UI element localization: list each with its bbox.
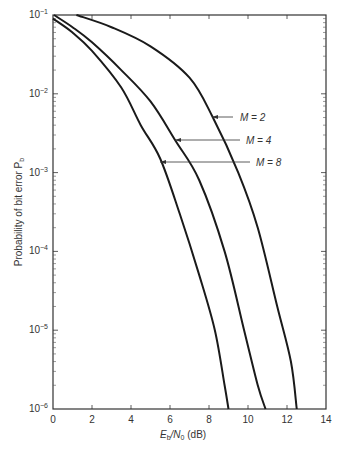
curve-m2 (76, 15, 296, 409)
x-tick-label: 0 (50, 414, 56, 425)
x-tick-label: 4 (128, 414, 134, 425)
x-tick-label: 14 (320, 414, 332, 425)
x-tick-label: 6 (167, 414, 173, 425)
y-tick-label: 10−2 (29, 87, 48, 99)
x-tick-label: 8 (206, 414, 212, 425)
plot-frame (53, 15, 326, 409)
y-tick-label: 10−3 (29, 166, 48, 178)
y-ticks: 10−110−210−310−410−510−6 (29, 8, 326, 414)
y-tick-label: 10−4 (29, 244, 48, 256)
curve-m8 (53, 19, 229, 409)
x-axis-label: Eb/N0 (dB) (160, 429, 206, 441)
y-axis-label: Probability of bit error Pb (13, 158, 25, 267)
curves (53, 15, 297, 409)
x-tick-label: 12 (281, 414, 293, 425)
y-tick-label: 10−1 (29, 8, 48, 20)
annotation-m8: M = 8 (160, 157, 282, 168)
y-tick-label: 10−6 (29, 402, 48, 414)
label-m2: M = 2 (240, 112, 266, 123)
x-ticks: 02468101214 (50, 15, 332, 425)
ber-chart: 02468101214 10−110−210−310−410−510−6 M =… (0, 0, 343, 453)
x-tick-label: 10 (242, 414, 254, 425)
label-m4: M = 4 (246, 135, 272, 146)
y-tick-label: 10−5 (29, 323, 48, 335)
x-tick-label: 2 (89, 414, 95, 425)
label-m8: M = 8 (256, 157, 282, 168)
annotation-m2: M = 2 (212, 112, 266, 123)
curve-m4 (54, 15, 266, 409)
y-minor-ticks (53, 19, 326, 386)
